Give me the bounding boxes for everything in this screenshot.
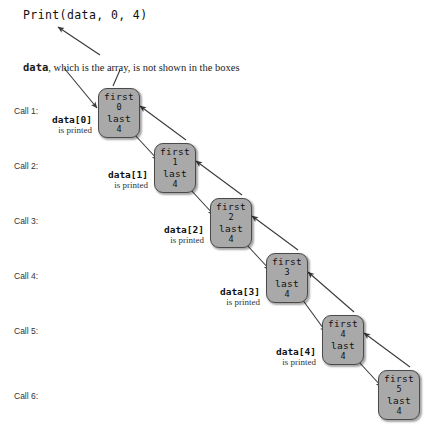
call-label-4: Call 4:: [14, 271, 38, 281]
printed-index: data[0]: [42, 114, 92, 125]
frame-first-label: first: [104, 91, 134, 102]
stack-frame-box: first 0 last 4: [98, 88, 140, 138]
array-note-mono: data: [23, 61, 48, 73]
frame-last-value: 4: [340, 351, 345, 362]
call-label-2: Call 2:: [14, 161, 38, 171]
array-note-rest: , which is the array, is not shown in th…: [48, 62, 239, 73]
frame-first-value: 0: [116, 102, 121, 113]
arrow-return-5-to-4: [308, 272, 354, 312]
recursion-trace-diagram: Print(data, 0, 4) data, which is the arr…: [0, 0, 430, 434]
frame-first-value: 4: [340, 329, 345, 340]
printed-caption: is printed: [98, 180, 148, 191]
call-label-3: Call 3:: [14, 216, 38, 226]
frame-last-value: 4: [116, 124, 121, 135]
arrow-return-2-to-1: [140, 106, 186, 140]
print-call-title: Print(data, 0, 4): [23, 8, 148, 22]
call-label-5: Call 5:: [14, 326, 38, 336]
printed-caption: is printed: [154, 235, 204, 246]
frame-last-label: last: [275, 278, 299, 289]
printed-output-label: data[2] is printed: [154, 224, 204, 246]
arrow-return-4-to-3: [252, 216, 298, 250]
printed-output-label: data[0] is printed: [42, 114, 92, 136]
arrow-return-3-to-2: [196, 161, 242, 195]
printed-caption: is printed: [42, 125, 92, 136]
frame-last-value: 4: [284, 289, 289, 300]
frame-last-label: last: [163, 168, 187, 179]
printed-output-label: data[1] is printed: [98, 169, 148, 191]
frame-first-value: 3: [284, 267, 289, 278]
printed-index: data[3]: [210, 286, 260, 297]
printed-caption: is printed: [210, 297, 260, 308]
stack-frame-box: first 3 last 4: [266, 253, 308, 303]
frame-last-value: 4: [396, 406, 401, 417]
printed-index: data[4]: [266, 346, 316, 357]
printed-caption: is printed: [266, 357, 316, 368]
call-label-6: Call 6:: [14, 391, 38, 401]
frame-first-label: first: [160, 146, 190, 157]
frame-first-value: 2: [228, 212, 233, 223]
arrow-return-6-to-5: [364, 333, 410, 367]
printed-output-label: data[3] is printed: [210, 286, 260, 308]
printed-output-label: data[4] is printed: [266, 346, 316, 368]
stack-frame-box: first 2 last 4: [210, 198, 252, 248]
arrow-note-to-call1: [64, 68, 97, 108]
frame-first-label: first: [272, 256, 302, 267]
frame-last-value: 4: [228, 234, 233, 245]
stack-frame-box: first 5 last 4: [378, 370, 420, 420]
frame-first-value: 5: [396, 384, 401, 395]
frame-first-label: first: [328, 318, 358, 329]
frame-first-label: first: [216, 201, 246, 212]
frame-last-label: last: [219, 223, 243, 234]
frame-first-label: first: [384, 373, 414, 384]
frame-last-value: 4: [172, 179, 177, 190]
call-label-1: Call 1:: [14, 106, 38, 116]
stack-frame-box: first 4 last 4: [322, 315, 364, 365]
frame-last-label: last: [107, 113, 131, 124]
frame-first-value: 1: [172, 157, 177, 168]
array-note: data, which is the array, is not shown i…: [23, 61, 240, 73]
arrow-note-to-title: [58, 27, 100, 55]
printed-index: data[1]: [98, 169, 148, 180]
frame-last-label: last: [387, 395, 411, 406]
frame-last-label: last: [331, 340, 355, 351]
stack-frame-box: first 1 last 4: [154, 143, 196, 193]
printed-index: data[2]: [154, 224, 204, 235]
